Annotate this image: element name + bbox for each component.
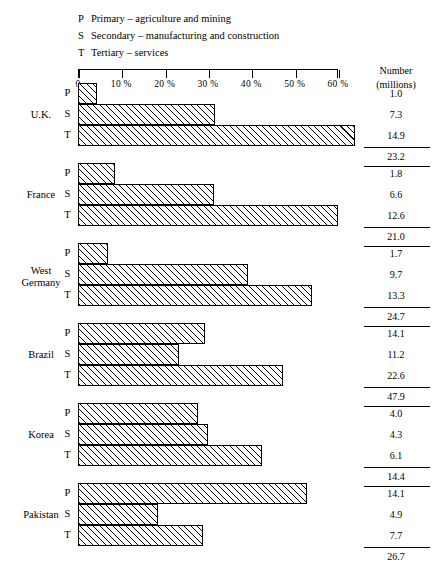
total-value: 26.7 [355, 551, 437, 562]
bar-key-t: T [62, 209, 73, 220]
bar-key-t: T [62, 369, 73, 380]
bar-s [78, 184, 214, 205]
value-cell: 4.9 [355, 509, 437, 520]
value-cell: 12.6 [355, 210, 437, 221]
total-rule-bottom [364, 166, 430, 167]
total-rule-top [364, 387, 430, 388]
total-rule-top [364, 147, 430, 148]
total-rule-bottom [364, 406, 430, 407]
bar-key-t: T [62, 129, 73, 140]
value-cell: 13.3 [355, 290, 437, 301]
bar-key-p: P [62, 167, 73, 178]
bar-t [78, 285, 312, 306]
bar-key-t: T [62, 449, 73, 460]
bar-key-p: P [62, 327, 73, 338]
bar-key-t: T [62, 289, 73, 300]
bar-p [78, 403, 198, 424]
value-cell: 6.6 [355, 189, 437, 200]
value-cell: 22.6 [355, 370, 437, 381]
bar-s [78, 104, 215, 125]
bar-p [78, 83, 97, 104]
bar-t [78, 205, 338, 226]
total-rule-top [364, 467, 430, 468]
value-cell: 1.0 [355, 88, 437, 99]
bar-key-s: S [62, 108, 73, 119]
bar-key-p: P [62, 87, 73, 98]
total-rule-top [364, 547, 430, 548]
total-value: 14.4 [355, 471, 437, 482]
bar-p [78, 163, 115, 184]
bar-key-t: T [62, 529, 73, 540]
bar-key-s: S [62, 268, 73, 279]
bar-p [78, 483, 307, 504]
value-cell: 6.1 [355, 450, 437, 461]
bar-p [78, 243, 108, 264]
value-cell: 7.3 [355, 109, 437, 120]
value-cell: 9.7 [355, 269, 437, 280]
bar-t [78, 365, 283, 386]
bar-s [78, 344, 179, 365]
total-rule-bottom [364, 486, 430, 487]
bar-s [78, 504, 158, 525]
bar-key-s: S [62, 348, 73, 359]
chart-plot-area: U.K.P1.0S7.3T14.923.2FranceP1.8S6.6T12.6… [0, 0, 439, 566]
bar-key-p: P [62, 247, 73, 258]
bar-p [78, 323, 205, 344]
total-rule-bottom [364, 326, 430, 327]
bar-key-s: S [62, 188, 73, 199]
value-cell: 1.8 [355, 168, 437, 179]
bar-s [78, 424, 208, 445]
bar-key-s: S [62, 428, 73, 439]
bar-key-s: S [62, 508, 73, 519]
value-cell: 4.0 [355, 408, 437, 419]
value-cell: 14.9 [355, 130, 437, 141]
total-value: 23.2 [355, 151, 437, 162]
bar-t [78, 125, 355, 146]
total-rule-top [364, 307, 430, 308]
value-cell: 14.1 [355, 328, 437, 339]
bar-key-p: P [62, 487, 73, 498]
bar-t [78, 445, 262, 466]
total-rule-top [364, 227, 430, 228]
value-cell: 7.7 [355, 530, 437, 541]
bar-s [78, 264, 248, 285]
value-cell: 4.3 [355, 429, 437, 440]
bar-key-p: P [62, 407, 73, 418]
total-value: 21.0 [355, 231, 437, 242]
total-value: 24.7 [355, 311, 437, 322]
value-cell: 14.1 [355, 488, 437, 499]
value-cell: 11.2 [355, 349, 437, 360]
total-value: 47.9 [355, 391, 437, 402]
bar-t [78, 525, 203, 546]
value-cell: 1.7 [355, 248, 437, 259]
total-rule-bottom [364, 246, 430, 247]
